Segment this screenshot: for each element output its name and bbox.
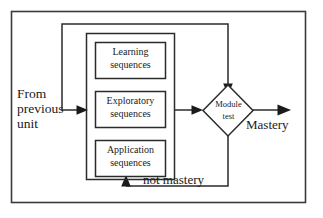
node-application-sequences-label-line2: sequences	[110, 157, 151, 168]
flowchart-canvas: Learning sequences Exploratory sequences…	[0, 0, 323, 218]
edge-label-not-mastery: not mastery	[143, 172, 205, 187]
entry-label-line2: previous	[17, 101, 64, 116]
edge-label-mastery: Mastery	[246, 117, 289, 132]
node-learning-sequences-label-line1: Learning	[112, 46, 148, 57]
node-exploratory-sequences-label-line2: sequences	[110, 108, 151, 119]
arrow-mastery	[278, 105, 292, 116]
node-exploratory-sequences-label-line1: Exploratory	[107, 95, 155, 106]
node-module-test-label-line1: Module	[215, 99, 242, 109]
arrow-into-module-test-left	[192, 105, 204, 115]
entry-label-line3: unit	[17, 116, 38, 131]
node-module-test-label-line2: test	[223, 111, 235, 121]
node-learning-sequences-label-line2: sequences	[110, 59, 151, 70]
node-application-sequences-label-line1: Application	[107, 144, 154, 155]
entry-label-line1: From	[17, 86, 47, 101]
flowchart-diagram: Learning sequences Exploratory sequences…	[0, 0, 323, 218]
